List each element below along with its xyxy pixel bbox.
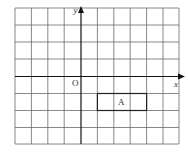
x-axis bbox=[15, 74, 185, 80]
x-axis-arrow-icon bbox=[178, 74, 185, 80]
y-axis bbox=[78, 6, 84, 144]
origin-label: O bbox=[72, 78, 79, 88]
coordinate-grid-diagram: y x O A bbox=[0, 0, 188, 152]
rectangle-a-label: A bbox=[118, 97, 125, 107]
x-axis-label: x bbox=[173, 79, 178, 89]
y-axis-label: y bbox=[73, 5, 78, 15]
y-axis-arrow-icon bbox=[78, 6, 84, 13]
